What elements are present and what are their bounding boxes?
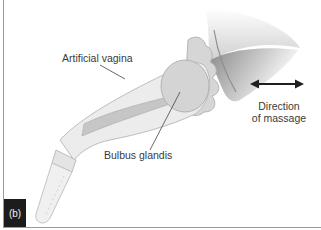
direction-arrow-icon <box>250 80 304 89</box>
label-artificial-vagina: Artificial vagina <box>62 52 133 64</box>
label-direction-of-massage: Direction of massage <box>248 100 310 124</box>
label-direction-line1: Direction <box>248 100 310 112</box>
artificial-vagina-device <box>36 60 210 223</box>
panel-label: (b) <box>4 199 26 227</box>
label-bulbus-glandis: Bulbus glandis <box>104 149 172 161</box>
label-direction-line2: of massage <box>248 112 310 124</box>
artificial-vagina-leader <box>100 65 125 79</box>
